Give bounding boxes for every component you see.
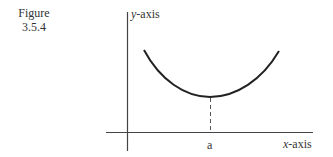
curve	[144, 50, 279, 97]
x-axis-label: x-axis	[283, 138, 312, 150]
y-axis-label: y-axis	[131, 8, 160, 20]
y-axis-suffix: -axis	[136, 7, 159, 21]
tick-label-a: a	[207, 139, 212, 151]
graph-plot	[0, 0, 333, 157]
x-axis-suffix: -axis	[288, 137, 311, 151]
